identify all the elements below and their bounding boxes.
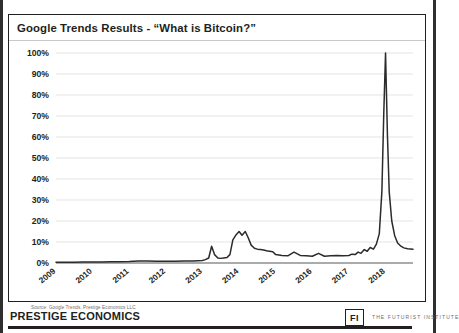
- svg-text:2010: 2010: [73, 266, 94, 286]
- plot-area: 0%10%20%30%40%50%60%70%80%90%100% 200920…: [9, 41, 425, 303]
- futurist-institute-mark: FI: [345, 309, 364, 326]
- chart-frame: Google Trends Results - “What is Bitcoin…: [8, 14, 426, 302]
- svg-text:2009: 2009: [37, 266, 58, 286]
- line-chart: 0%10%20%30%40%50%60%70%80%90%100% 200920…: [9, 41, 425, 301]
- svg-text:80%: 80%: [32, 90, 50, 100]
- svg-text:2012: 2012: [147, 266, 168, 286]
- svg-text:10%: 10%: [32, 237, 50, 247]
- svg-text:60%: 60%: [32, 132, 50, 142]
- y-axis-labels: 0%10%20%30%40%50%60%70%80%90%100%: [27, 48, 49, 268]
- data-series: [56, 53, 413, 262]
- svg-text:2017: 2017: [330, 266, 351, 286]
- svg-text:20%: 20%: [32, 216, 50, 226]
- x-axis-labels: 2009201020112012201320142015201620172018: [37, 266, 387, 286]
- chart-title-bar: Google Trends Results - “What is Bitcoin…: [9, 15, 425, 41]
- svg-text:2011: 2011: [110, 266, 131, 285]
- svg-text:2014: 2014: [220, 266, 241, 286]
- chart-title: Google Trends Results - “What is Bitcoin…: [9, 22, 256, 34]
- slide-footer: PRESTIGE ECONOMICS FI THE FUTURIST INSTI…: [0, 310, 436, 333]
- svg-text:2018: 2018: [366, 266, 387, 286]
- svg-text:40%: 40%: [32, 174, 50, 184]
- svg-text:2016: 2016: [293, 266, 314, 286]
- svg-text:70%: 70%: [32, 111, 50, 121]
- svg-text:30%: 30%: [32, 195, 50, 205]
- slide-edge-top: [0, 0, 436, 3]
- svg-text:0%: 0%: [37, 258, 50, 268]
- slide-edge-left: [0, 0, 3, 333]
- brand-prestige-economics: PRESTIGE ECONOMICS: [10, 310, 140, 322]
- futurist-institute-label: THE FUTURIST INSTITUTE: [372, 314, 459, 320]
- grid-lines: [56, 53, 413, 263]
- svg-text:2013: 2013: [183, 266, 204, 286]
- svg-text:90%: 90%: [32, 69, 50, 79]
- slide-edge-right: [433, 0, 436, 333]
- svg-text:50%: 50%: [32, 153, 50, 163]
- footer-divider: [8, 326, 412, 329]
- svg-text:2015: 2015: [256, 266, 277, 286]
- svg-text:100%: 100%: [27, 48, 49, 58]
